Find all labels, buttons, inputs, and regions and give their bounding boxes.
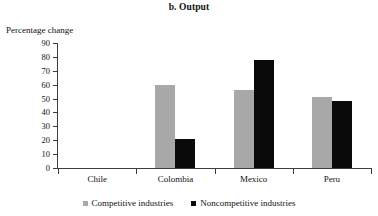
bar-group xyxy=(77,43,117,168)
y-axis-tick xyxy=(53,126,58,127)
y-axis-tick-label: 40 xyxy=(27,108,50,117)
x-axis-category-label: Colombia xyxy=(136,174,214,184)
x-axis-category-label: Mexico xyxy=(215,174,293,184)
y-axis-tick-label: 60 xyxy=(27,81,50,90)
x-axis-category-label: Peru xyxy=(293,174,371,184)
chart-figure: b. Output Percentage change 908070605040… xyxy=(0,0,378,216)
chart-title: b. Output xyxy=(0,2,378,12)
bar xyxy=(155,85,175,168)
y-axis-tick xyxy=(53,43,58,44)
bar xyxy=(312,97,332,168)
y-axis-tick-label: 10 xyxy=(27,150,50,159)
legend-item-competitive: Competitive industries xyxy=(83,198,174,208)
bar xyxy=(234,90,254,168)
bar xyxy=(254,60,274,168)
y-axis-tick-label: 0 xyxy=(27,164,50,173)
bar xyxy=(332,101,352,168)
y-axis-tick-label: 80 xyxy=(27,53,50,62)
y-axis-tick xyxy=(53,112,58,113)
y-axis-tick-label: 30 xyxy=(27,122,50,131)
y-axis-tick-label: 90 xyxy=(27,39,50,48)
y-axis-tick-label: 50 xyxy=(27,95,50,104)
bar-group xyxy=(234,43,274,168)
y-axis-tick-label: 70 xyxy=(27,67,50,76)
x-axis-tick xyxy=(371,168,372,174)
bar-group xyxy=(155,43,195,168)
y-axis-title: Percentage change xyxy=(6,25,73,35)
bar-group xyxy=(312,43,352,168)
y-axis-tick xyxy=(53,85,58,86)
y-axis-line xyxy=(57,43,58,169)
y-axis-tick-label: 20 xyxy=(27,136,50,145)
bar xyxy=(175,139,195,168)
y-axis-tick xyxy=(53,99,58,100)
x-axis-category-label: Chile xyxy=(58,174,136,184)
legend-label-noncompetitive: Noncompetitive industries xyxy=(200,198,295,208)
black-square-icon xyxy=(191,201,196,206)
chart-legend: Competitive industries Noncompetitive in… xyxy=(0,198,378,208)
y-axis-tick xyxy=(53,140,58,141)
x-axis-line xyxy=(57,168,371,169)
legend-item-noncompetitive: Noncompetitive industries xyxy=(191,198,295,208)
legend-label-competitive: Competitive industries xyxy=(92,198,174,208)
y-axis-tick xyxy=(53,154,58,155)
y-axis-tick xyxy=(53,57,58,58)
y-axis-tick xyxy=(53,71,58,72)
gray-square-icon xyxy=(83,201,88,206)
